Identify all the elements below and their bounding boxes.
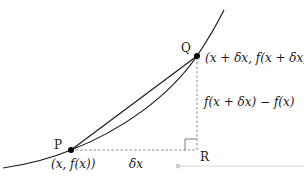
point-p-marker — [68, 147, 74, 153]
point-p-label: P — [54, 138, 62, 152]
delta-x-label: δx — [129, 157, 143, 171]
right-angle-marker — [185, 139, 197, 150]
point-r-label: R — [200, 150, 210, 164]
point-q-coords: (x + δx, f(x + δx)) — [205, 51, 304, 65]
point-q-marker — [194, 53, 200, 59]
secant-chord — [71, 56, 197, 150]
delta-y-label: f(x + δx) − f(x) — [203, 95, 295, 109]
point-p-coords: (x, f(x)) — [51, 157, 96, 171]
function-curve — [3, 10, 224, 168]
secant-diagram: P (x, f(x)) Q (x + δx, f(x + δx)) R δx f… — [0, 0, 304, 180]
slider-knob[interactable] — [176, 164, 181, 169]
point-q-label: Q — [181, 41, 191, 55]
